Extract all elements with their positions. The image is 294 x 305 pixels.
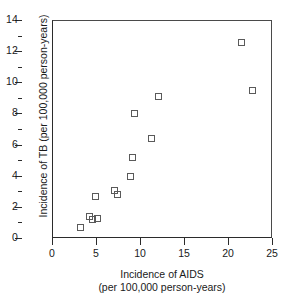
data-point bbox=[127, 173, 134, 180]
data-point bbox=[131, 110, 138, 117]
data-point bbox=[94, 215, 101, 222]
data-point bbox=[249, 87, 256, 94]
data-point bbox=[148, 135, 155, 142]
data-point bbox=[77, 224, 84, 231]
data-point bbox=[155, 93, 162, 100]
data-point bbox=[114, 191, 121, 198]
data-point bbox=[129, 154, 136, 161]
scatter-plot-figure: Incidence of TB (per 100,000 person-year… bbox=[0, 0, 294, 305]
data-point bbox=[92, 193, 99, 200]
data-point bbox=[238, 39, 245, 46]
data-points-layer bbox=[0, 0, 294, 305]
